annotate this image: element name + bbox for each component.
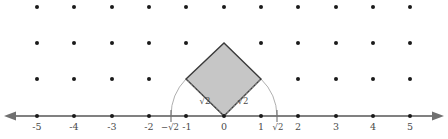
lattice-dot bbox=[147, 41, 151, 45]
axis-tick-dot bbox=[110, 114, 114, 118]
lattice-dot bbox=[408, 77, 412, 81]
lattice-dot bbox=[371, 5, 375, 9]
axis-arrow-right bbox=[432, 112, 444, 121]
lattice-dot bbox=[408, 5, 412, 9]
lattice-dot bbox=[296, 41, 300, 45]
lattice-dot bbox=[371, 41, 375, 45]
axis-tick-dot bbox=[72, 114, 76, 118]
axis-tick-label: 2 bbox=[295, 121, 301, 132]
lattice-dot bbox=[408, 41, 412, 45]
axis-arrow-left bbox=[4, 112, 16, 121]
axis-tick-label: 0 bbox=[221, 121, 227, 132]
sqrt2-label-left: √2 bbox=[200, 96, 211, 106]
axis-tick-dot bbox=[147, 114, 151, 118]
axis-tick-label: 4 bbox=[370, 121, 376, 132]
axis-tick-dot bbox=[184, 114, 188, 118]
lattice-dot bbox=[184, 41, 188, 45]
arc-right bbox=[261, 79, 277, 116]
lattice-dot bbox=[110, 5, 114, 9]
lattice-dot bbox=[259, 5, 263, 9]
lattice-dot bbox=[222, 5, 226, 9]
axis-tick-dot bbox=[334, 114, 338, 118]
axis-tick-label: -1 bbox=[182, 121, 191, 132]
lattice-dot bbox=[296, 5, 300, 9]
lattice-dot bbox=[259, 41, 263, 45]
pos-sqrt2-tick-label: √2 bbox=[273, 122, 284, 132]
number-line-lattice-figure bbox=[0, 0, 448, 139]
axis-tick-dot bbox=[371, 114, 375, 118]
lattice-dot bbox=[147, 5, 151, 9]
lattice-dot bbox=[296, 77, 300, 81]
lattice-dot bbox=[72, 5, 76, 9]
lattice-dot bbox=[72, 41, 76, 45]
axis-tick-label: -4 bbox=[69, 121, 78, 132]
axis-tick-label: -5 bbox=[32, 121, 41, 132]
lattice-dot bbox=[110, 77, 114, 81]
lattice-dot bbox=[35, 77, 39, 81]
axis-tick-dot bbox=[259, 114, 263, 118]
axis-tick-label: -2 bbox=[144, 121, 153, 132]
axis-tick-dot bbox=[296, 114, 300, 118]
arc-left bbox=[171, 79, 186, 116]
neg-sqrt2-tick-label: −√2 bbox=[161, 122, 179, 132]
axis-tick-label: 5 bbox=[407, 121, 413, 132]
lattice-dot bbox=[184, 5, 188, 9]
axis-tick-label: -3 bbox=[107, 121, 116, 132]
lattice-dot bbox=[334, 5, 338, 9]
lattice-dot bbox=[334, 77, 338, 81]
axis-tick-label: 1 bbox=[258, 121, 264, 132]
lattice-dot bbox=[334, 41, 338, 45]
axis-tick-dot bbox=[408, 114, 412, 118]
lattice-dot bbox=[35, 41, 39, 45]
lattice-dot bbox=[371, 77, 375, 81]
shaded-rotated-square bbox=[186, 43, 261, 116]
lattice-dot bbox=[35, 5, 39, 9]
sqrt2-label-right: √2 bbox=[238, 96, 249, 106]
lattice-dot bbox=[147, 77, 151, 81]
axis-tick-dot bbox=[35, 114, 39, 118]
lattice-dot bbox=[110, 41, 114, 45]
lattice-dot bbox=[72, 77, 76, 81]
axis-tick-label: 3 bbox=[333, 121, 339, 132]
axis-tick-dot bbox=[222, 114, 226, 118]
figure-canvas: -5 -4 -3 -2 -1 0 1 2 3 4 5 −√2 √2 √2 √2 bbox=[0, 0, 448, 139]
